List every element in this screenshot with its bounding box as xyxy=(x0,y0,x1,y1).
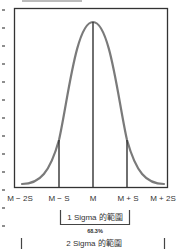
x-tick-label: M − S xyxy=(48,194,69,203)
x-tick-label: M xyxy=(90,194,97,203)
one-sigma-label: 1 Sigma 的範圍 xyxy=(67,212,123,222)
chart-frame xyxy=(15,9,168,188)
left-tick-marks xyxy=(2,10,5,226)
two-sigma-label: 2 Sigma 的範圍 xyxy=(66,238,122,248)
x-tick-label: M − 2S xyxy=(7,194,33,203)
x-tick-label: M + 2S xyxy=(150,194,176,203)
normal-distribution-chart: M − 2S M − S M M + S M + 2S 1 Sigma 的範圍 … xyxy=(0,0,178,249)
cut-off-title xyxy=(22,0,82,2)
x-tick-label: M + S xyxy=(117,194,138,203)
one-sigma-percent: 68.3% xyxy=(87,228,103,234)
